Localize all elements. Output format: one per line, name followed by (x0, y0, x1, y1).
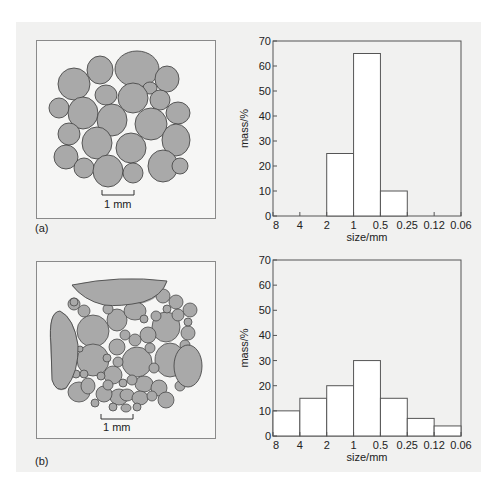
y-tick-label: 60 (259, 60, 271, 72)
y-tick-label: 30 (259, 355, 271, 367)
y-tick-label: 20 (259, 380, 271, 392)
histogram-bar (300, 398, 327, 436)
y-tick-label: 40 (259, 110, 271, 122)
histogram-bar (273, 411, 300, 436)
panel-label-a: (a) (35, 222, 48, 234)
x-tick-label: 2 (324, 439, 330, 451)
scale-bar-b (101, 414, 133, 419)
x-axis-label: size/mm (347, 231, 388, 243)
histogram-a: 01020304050607084210.50.250.120.06size/m… (238, 35, 472, 243)
histogram-bar (380, 398, 407, 436)
y-tick-label: 60 (259, 279, 271, 291)
x-tick-label: 2 (324, 219, 330, 231)
x-tick-label: 0.5 (373, 219, 388, 231)
histogram-b: 01020304050607084210.50.250.120.06size/m… (238, 254, 472, 463)
scale-bar-a (102, 190, 134, 195)
y-tick-label: 70 (259, 35, 271, 47)
histogram-bar (434, 426, 461, 436)
histogram-bar (354, 54, 381, 217)
y-tick-label: 0 (265, 210, 271, 222)
y-tick-label: 10 (259, 405, 271, 417)
histogram-bar (380, 191, 407, 216)
y-tick-label: 40 (259, 329, 271, 341)
x-tick-label: 4 (297, 439, 303, 451)
y-tick-label: 70 (259, 254, 271, 266)
x-tick-label: 0.12 (423, 219, 444, 231)
x-tick-label: 4 (297, 219, 303, 231)
grains-a (49, 51, 190, 187)
large-grain-top-b (72, 279, 167, 306)
y-tick-label: 20 (259, 160, 271, 172)
x-tick-label: 8 (273, 219, 279, 231)
histogram-bar (327, 154, 354, 217)
x-tick-label: 1 (351, 439, 357, 451)
y-tick-label: 10 (259, 185, 271, 197)
x-tick-label: 0.25 (397, 439, 418, 451)
x-axis-label: size/mm (347, 451, 388, 463)
y-tick-label: 30 (259, 135, 271, 147)
large-grain-right-b (174, 345, 202, 387)
x-tick-label: 0.12 (423, 439, 444, 451)
y-axis-label: mass/% (238, 328, 250, 367)
scale-label-a: 1 mm (104, 198, 132, 210)
x-tick-label: 0.06 (450, 219, 471, 231)
panel-label-b: (b) (35, 455, 48, 467)
histogram-bar (354, 361, 381, 436)
histogram-bar (407, 418, 434, 436)
x-tick-label: 1 (351, 219, 357, 231)
figure-graphics: 01020304050607084210.50.250.120.06size/m… (0, 0, 495, 483)
x-tick-label: 0.25 (397, 219, 418, 231)
x-tick-label: 0.5 (373, 439, 388, 451)
y-axis-label: mass/% (238, 109, 250, 148)
y-tick-label: 50 (259, 85, 271, 97)
y-tick-label: 50 (259, 304, 271, 316)
x-tick-label: 8 (273, 439, 279, 451)
histogram-bar (327, 386, 354, 436)
scale-label-b: 1 mm (103, 421, 131, 433)
x-tick-label: 0.06 (450, 439, 471, 451)
y-tick-label: 0 (265, 430, 271, 442)
